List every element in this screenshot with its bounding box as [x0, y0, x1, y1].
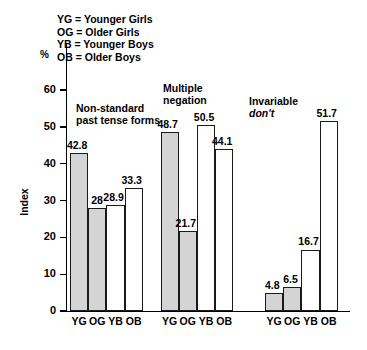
- bar-yg-group3: [265, 293, 283, 311]
- bar-yb-group2: [197, 125, 215, 311]
- bar-value-yb-group3: 16.7: [298, 236, 318, 247]
- bar-ob-group1: [125, 188, 143, 311]
- group-title-line2: past tense forms: [76, 114, 160, 126]
- group-title-line1: Non-standard: [76, 102, 144, 114]
- group-title-multiple-negation: Multiple negation: [163, 82, 207, 107]
- x-label-ob-group1: OB: [122, 315, 146, 327]
- bar-value-yb-group2: 50.5: [194, 112, 214, 123]
- plot-area: 42.82828.933.348.721.750.544.14.86.516.7…: [0, 0, 367, 311]
- group-title-line2: negation: [163, 94, 207, 106]
- bar-og-group1: [88, 208, 106, 311]
- bar-value-yg-group1: 42.8: [67, 140, 87, 151]
- bar-value-og-group2: 21.7: [176, 218, 196, 229]
- bar-value-ob-group2: 44.1: [212, 136, 232, 147]
- bar-value-yg-group2: 48.7: [157, 119, 177, 130]
- bar-og-group3: [283, 287, 301, 311]
- bar-value-ob-group3: 51.7: [317, 108, 337, 119]
- bar-value-yb-group1: 28.9: [103, 192, 123, 203]
- group-title-line1: Invariable: [249, 95, 298, 107]
- group-title-non-standard-past-tense-forms: Non-standard past tense forms: [76, 102, 160, 127]
- bar-value-og-group3: 6.5: [283, 274, 298, 285]
- x-label-ob-group2: OB: [212, 315, 236, 327]
- group-title-line1: Multiple: [163, 82, 203, 94]
- bar-chart: YG = Younger Girls OG = Older Girls YB =…: [0, 0, 367, 350]
- group-title-invariable-dont: Invariable don't: [249, 95, 298, 120]
- bar-og-group2: [179, 231, 197, 311]
- group-title-italic-line: don't: [249, 107, 298, 119]
- x-label-ob-group3: OB: [317, 315, 341, 327]
- bar-ob-group3: [320, 121, 338, 311]
- bar-value-yg-group3: 4.8: [265, 280, 280, 291]
- bar-yb-group3: [301, 250, 319, 312]
- bar-value-og-group1: 28: [91, 195, 103, 206]
- bar-yg-group1: [70, 153, 88, 311]
- bar-ob-group2: [215, 149, 233, 311]
- bar-value-ob-group1: 33.3: [122, 175, 142, 186]
- bar-yb-group1: [106, 205, 124, 311]
